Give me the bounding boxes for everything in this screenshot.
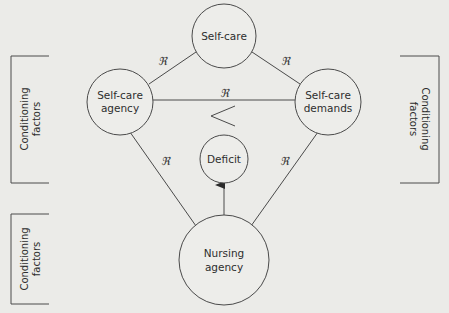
edge-agency-selfcare bbox=[149, 52, 196, 84]
edge-demands-nursing bbox=[251, 125, 323, 226]
relation-selfcare-demands: ℜ bbox=[281, 55, 291, 68]
node-deficit-label: Deficit bbox=[207, 153, 241, 165]
node-deficit: Deficit bbox=[200, 135, 248, 183]
orem-self-care-deficit-diagram: ℜ ℜ ℜ ℜ ℜ Self-care Self-care agency Sel… bbox=[0, 0, 449, 313]
edge-agency-nursing bbox=[125, 125, 196, 226]
less-than-symbol bbox=[211, 106, 235, 126]
node-nursing-agency-label-1: Nursing bbox=[204, 247, 245, 259]
relation-demands-nursing: ℜ bbox=[280, 155, 290, 168]
node-self-care-agency-label-2: agency bbox=[101, 102, 139, 114]
relation-agency-demands: ℜ bbox=[220, 87, 230, 100]
conditioning-right-line2: factors bbox=[408, 102, 419, 137]
node-nursing-agency-label-2: agency bbox=[205, 261, 243, 273]
node-self-care: Self-care bbox=[192, 4, 256, 68]
conditioning-left-top-line1: Conditioning bbox=[19, 87, 30, 150]
node-self-care-demands-label-2: demands bbox=[304, 102, 353, 114]
conditioning-left-bottom-line2: factors bbox=[31, 242, 42, 277]
node-self-care-agency-label-1: Self-care bbox=[97, 89, 143, 101]
conditioning-bracket-left-top: Conditioning factors bbox=[11, 56, 49, 183]
node-self-care-demands: Self-care demands bbox=[295, 69, 361, 135]
conditioning-right-line1: Conditioning bbox=[420, 87, 431, 150]
edge-selfcare-demands bbox=[252, 52, 300, 84]
node-self-care-agency: Self-care agency bbox=[87, 69, 153, 135]
conditioning-left-bottom-line1: Conditioning bbox=[19, 227, 30, 290]
node-self-care-demands-label-1: Self-care bbox=[305, 89, 351, 101]
conditioning-left-top-line2: factors bbox=[31, 102, 42, 137]
conditioning-bracket-left-bottom: Conditioning factors bbox=[11, 214, 49, 304]
node-nursing-agency: Nursing agency bbox=[179, 215, 269, 305]
conditioning-bracket-right: Conditioning factors bbox=[400, 56, 439, 183]
node-self-care-label: Self-care bbox=[201, 30, 247, 42]
relation-agency-nursing: ℜ bbox=[161, 155, 171, 168]
relation-agency-selfcare: ℜ bbox=[158, 55, 168, 68]
